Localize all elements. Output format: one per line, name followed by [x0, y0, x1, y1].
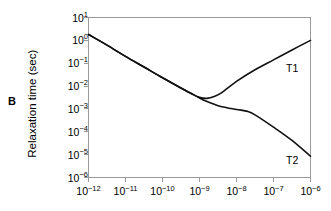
- series-label-t2: T2: [286, 155, 298, 166]
- series-label-t1: T1: [286, 63, 298, 74]
- relaxation-time-plot: [0, 0, 331, 211]
- data-series: [89, 35, 311, 157]
- curve-t1: [89, 35, 311, 99]
- figure-panel-b: B Relaxation time (sec) 10110010−110−210…: [0, 0, 331, 211]
- curve-t2: [89, 35, 311, 157]
- tick-marks: [84, 18, 311, 183]
